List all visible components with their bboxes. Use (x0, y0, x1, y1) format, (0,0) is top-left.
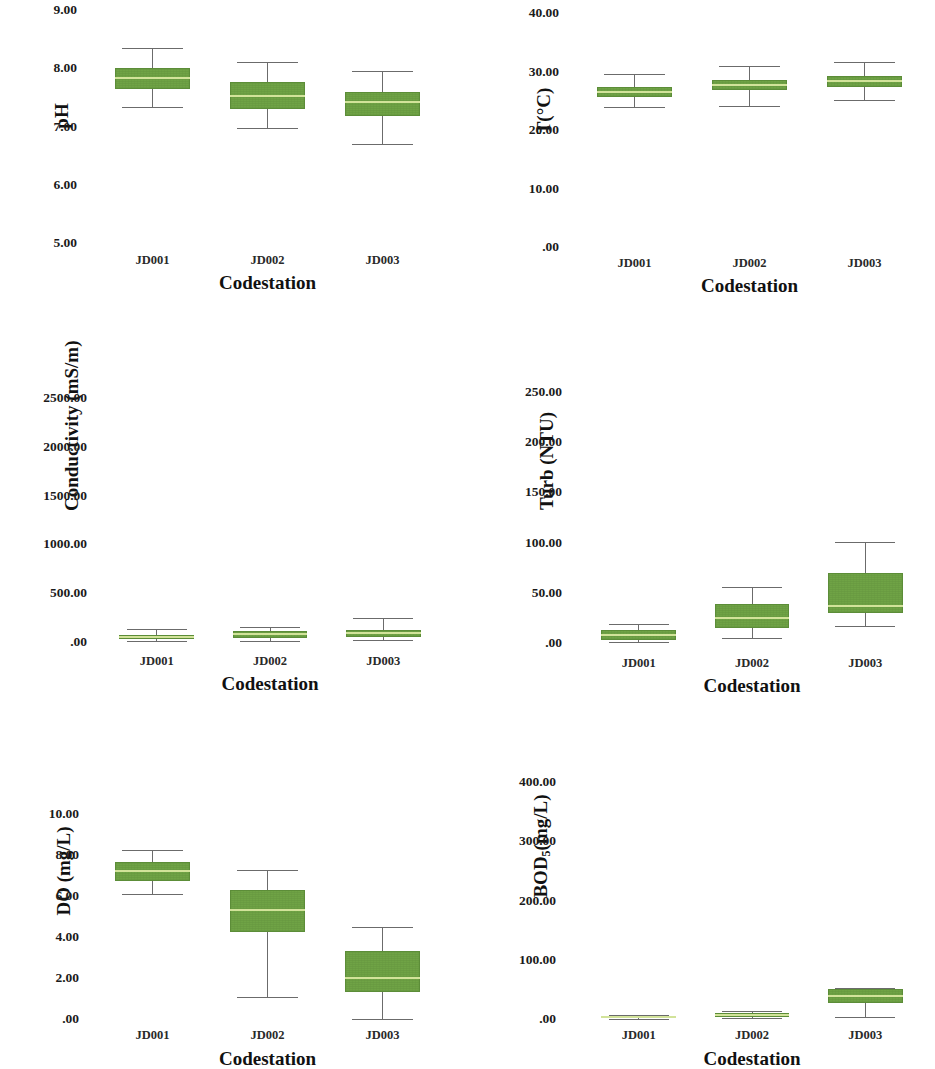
whisker-lower (382, 116, 383, 144)
whisker-upper (382, 927, 383, 952)
whisker-upper (383, 618, 384, 630)
median-line (230, 95, 306, 97)
panel-temperature: T(°C)40.0030.0020.0010.00.00JD001JD002JD… (467, 0, 934, 307)
whisker-lower (865, 1003, 866, 1017)
whisker-upper (382, 71, 383, 91)
whisker-lower (382, 992, 383, 1019)
whisker-cap-lower (122, 894, 183, 895)
x-tick-label-JD001: JD001 (622, 656, 656, 671)
y-tick-label: 150.00 (490, 484, 562, 500)
x-tick-label-JD003: JD003 (848, 656, 882, 671)
y-tick-label: 200.00 (484, 893, 556, 909)
whisker-cap-lower (240, 641, 300, 642)
y-tick-label: 2.00 (7, 970, 79, 986)
whisker-cap-upper (834, 62, 895, 63)
median-line (345, 101, 421, 103)
box-texture (716, 605, 789, 627)
whisker-cap-lower (352, 144, 413, 145)
whisker-cap-upper (127, 629, 187, 630)
y-tick-label: 100.00 (490, 535, 562, 551)
whisker-lower (749, 90, 750, 106)
whisker-cap-upper (609, 624, 669, 625)
whisker-cap-upper (722, 587, 782, 588)
x-tick-label-JD001: JD001 (622, 1028, 656, 1043)
median-line (828, 995, 903, 997)
whisker-cap-upper (237, 870, 298, 871)
x-axis-title-dissolved_oxygen: Codestation (219, 1048, 316, 1069)
y-tick-label: .00 (487, 239, 559, 255)
whisker-cap-lower (609, 1019, 669, 1020)
y-tick-label: 10.00 (7, 806, 79, 822)
y-tick-label: 100.00 (484, 952, 556, 968)
median-line (601, 1016, 676, 1018)
panel-turbidity: Turb (NTU)250.00200.00150.00100.0050.00.… (467, 370, 934, 703)
median-line (346, 632, 421, 634)
y-tick-label: 20.00 (487, 122, 559, 138)
box-rect (345, 951, 421, 992)
whisker-cap-lower (352, 1019, 413, 1020)
y-axis-title-turbidity: Turb (NTU) (536, 401, 558, 521)
x-axis-title-ph: Codestation (219, 272, 316, 294)
median-line (115, 870, 191, 872)
x-tick-label-JD003: JD003 (365, 253, 399, 268)
x-tick-label-JD002: JD002 (735, 1028, 769, 1043)
x-tick-label-JD003: JD003 (847, 256, 881, 271)
y-tick-label: .00 (484, 1011, 556, 1027)
y-tick-label: 400.00 (484, 774, 556, 790)
whisker-cap-upper (722, 1011, 782, 1012)
whisker-cap-upper (240, 627, 300, 628)
y-axis-title-dissolved_oxygen: DO (mg/L) (53, 811, 75, 931)
whisker-cap-lower (127, 641, 187, 642)
x-tick-label-JD002: JD002 (250, 1028, 284, 1043)
whisker-upper (749, 66, 750, 80)
whisker-upper (267, 62, 268, 82)
median-line (712, 84, 788, 86)
y-tick-label: 250.00 (490, 384, 562, 400)
whisker-cap-lower (835, 1017, 895, 1018)
box-rect (715, 604, 790, 628)
y-tick-label: 200.00 (490, 434, 562, 450)
y-tick-label: 7.00 (5, 119, 77, 135)
whisker-cap-lower (719, 106, 780, 107)
whisker-cap-upper (352, 71, 413, 72)
x-tick-label-JD003: JD003 (848, 1028, 882, 1043)
whisker-cap-lower (122, 107, 183, 108)
box-texture (346, 93, 420, 115)
whisker-upper (267, 870, 268, 889)
y-tick-label: 9.00 (5, 2, 77, 18)
y-tick-label: 10.00 (487, 181, 559, 197)
x-tick-label-JD001: JD001 (617, 256, 651, 271)
plot-area-turbidity: Turb (NTU)250.00200.00150.00100.0050.00.… (467, 370, 934, 703)
whisker-cap-upper (719, 66, 780, 67)
y-tick-label: 1000.00 (15, 536, 87, 552)
x-tick-label-JD001: JD001 (135, 1028, 169, 1043)
whisker-cap-lower (835, 626, 895, 627)
whisker-cap-lower (604, 107, 665, 108)
whisker-cap-upper (237, 62, 298, 63)
y-tick-label: 50.00 (490, 585, 562, 601)
whisker-cap-upper (353, 618, 413, 619)
whisker-lower (865, 613, 866, 626)
x-tick-label-JD003: JD003 (366, 654, 400, 669)
whisker-upper (752, 587, 753, 604)
box-texture (346, 952, 420, 991)
y-tick-label: .00 (15, 634, 87, 650)
x-axis-title-bod5: Codestation (703, 1048, 800, 1069)
panel-conductivity: Conductivity (mS/m)2500.002000.001500.00… (0, 370, 467, 702)
y-tick-label: 5.00 (5, 235, 77, 251)
x-tick-label-JD002: JD002 (253, 654, 287, 669)
y-tick-label: 8.00 (5, 60, 77, 76)
y-tick-label: 2500.00 (15, 390, 87, 406)
whisker-upper (865, 542, 866, 573)
whisker-cap-upper (352, 927, 413, 928)
whisker-cap-upper (122, 850, 183, 851)
whisker-cap-upper (122, 48, 183, 49)
whisker-lower (267, 932, 268, 998)
plot-area-conductivity: Conductivity (mS/m)2500.002000.001500.00… (0, 370, 467, 702)
plot-area-temperature: T(°C)40.0030.0020.0010.00.00JD001JD002JD… (467, 0, 934, 307)
median-line (827, 80, 903, 82)
median-line (715, 1014, 790, 1016)
panel-dissolved_oxygen: DO (mg/L)10.008.006.004.002.00.00JD001JD… (0, 760, 467, 1069)
x-tick-label-JD003: JD003 (365, 1028, 399, 1043)
